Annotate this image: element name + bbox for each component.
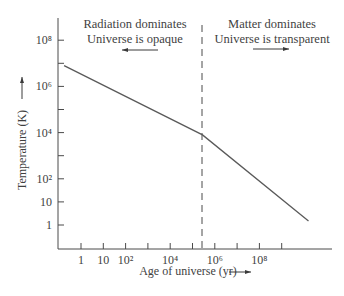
arrow-left-icon xyxy=(122,48,158,52)
x-tick-label: 1 xyxy=(78,253,84,267)
y-tick-label: 1 xyxy=(46,218,52,232)
x-tick-label: 10 xyxy=(97,253,109,267)
chart: 11010²10⁴10⁶10⁸ 11010²10⁴10⁶10⁸ Radiatio… xyxy=(0,0,344,296)
x-tick-label: 10⁸ xyxy=(251,253,267,267)
matter-label-line2: Universe is transparent xyxy=(214,32,330,46)
radiation-label-line1: Radiation dominates xyxy=(83,17,186,31)
y-tick-label: 10⁴ xyxy=(36,126,52,140)
y-tick-label: 10⁶ xyxy=(36,79,52,93)
temperature-curve xyxy=(64,66,308,222)
y-ticks: 11010²10⁴10⁶10⁸ xyxy=(36,33,64,232)
y-axis-label: Temperature (K) xyxy=(15,110,29,190)
radiation-label-line2: Universe is opaque xyxy=(87,32,183,46)
matter-annotation: Matter dominates Universe is transparent xyxy=(214,17,330,51)
x-tick-label: 10² xyxy=(118,253,134,267)
axes xyxy=(58,18,332,249)
y-axis-title: Temperature (K) xyxy=(15,77,29,190)
matter-label-line1: Matter dominates xyxy=(228,17,316,31)
y-tick-label: 10 xyxy=(40,195,52,209)
x-axis-label: Age of universe (yr) xyxy=(139,264,237,278)
arrow-up-icon xyxy=(20,77,24,99)
y-tick-label: 10² xyxy=(36,172,52,186)
radiation-annotation: Radiation dominates Universe is opaque xyxy=(83,17,186,52)
x-axis-title: Age of universe (yr) xyxy=(139,264,251,278)
arrow-right-icon xyxy=(253,47,289,51)
y-tick-label: 10⁸ xyxy=(36,33,52,47)
